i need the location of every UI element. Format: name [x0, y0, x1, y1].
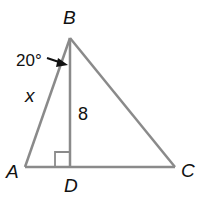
side-bc [70, 38, 175, 167]
vertex-label-c: C [181, 160, 195, 181]
vertex-label-a: A [5, 161, 19, 182]
vertex-label-d: D [64, 175, 78, 196]
altitude-label: 8 [78, 104, 88, 124]
angle-label: 20° [16, 51, 42, 70]
right-angle-marker [55, 152, 70, 167]
vertex-label-b: B [63, 7, 76, 28]
side-label-x: x [24, 85, 36, 106]
diagram-svg: B A D C x 8 20° [0, 0, 211, 198]
triangle-diagram: B A D C x 8 20° [0, 0, 211, 198]
